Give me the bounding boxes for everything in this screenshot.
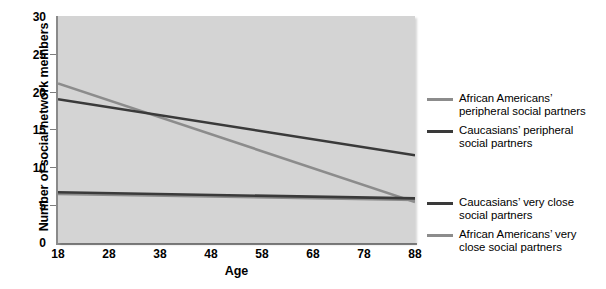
series-lines bbox=[58, 16, 415, 243]
x-axis-title: Age bbox=[58, 264, 415, 278]
x-tick-label-68: 68 bbox=[293, 247, 333, 261]
chart-figure: Number of social network members 30 25 2… bbox=[0, 0, 606, 289]
legend-swatch-icon bbox=[427, 202, 453, 205]
x-axis-line bbox=[56, 243, 417, 245]
legend-entry-caucasians-very-close: Caucasians’ very close social partners bbox=[427, 196, 602, 223]
x-tick-label-18: 18 bbox=[38, 247, 78, 261]
x-tick-label-58: 58 bbox=[242, 247, 282, 261]
y-tick-label-10: 10 bbox=[12, 161, 46, 175]
legend-label: African Americans’ very close social par… bbox=[459, 228, 602, 255]
legend-swatch-icon bbox=[427, 234, 453, 237]
plot-area bbox=[58, 16, 415, 243]
y-tick-label-15: 15 bbox=[12, 123, 46, 137]
x-tick-label-38: 38 bbox=[140, 247, 180, 261]
legend-swatch-icon bbox=[427, 130, 453, 133]
legend-entry-caucasians-peripheral: Caucasians’ peripheral social partners bbox=[427, 124, 602, 151]
x-tick-label-28: 28 bbox=[89, 247, 129, 261]
legend-entry-african-americans-very-close: African Americans’ very close social par… bbox=[427, 228, 602, 255]
line-caucasians-peripheral bbox=[58, 99, 415, 155]
legend-swatch-icon bbox=[427, 98, 453, 101]
legend-entry-african-americans-peripheral: African Americans’ peripheral social par… bbox=[427, 92, 602, 119]
y-tick-label-20: 20 bbox=[12, 86, 46, 100]
legend-label: Caucasians’ very close social partners bbox=[459, 196, 602, 223]
y-tick-label-5: 5 bbox=[12, 199, 46, 213]
x-tick-label-48: 48 bbox=[191, 247, 231, 261]
line-african-americans-peripheral bbox=[58, 83, 415, 202]
x-tick-label-78: 78 bbox=[344, 247, 384, 261]
legend-label: Caucasians’ peripheral social partners bbox=[459, 124, 602, 151]
legend-label: African Americans’ peripheral social par… bbox=[459, 92, 602, 119]
y-tick-label-30: 30 bbox=[12, 10, 46, 24]
y-tick-label-25: 25 bbox=[12, 48, 46, 62]
